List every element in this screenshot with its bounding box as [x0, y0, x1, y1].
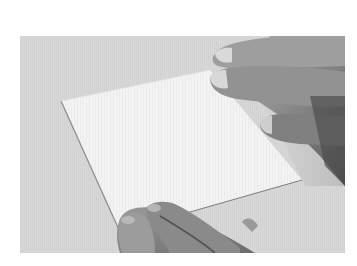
- photo-illustration: [20, 36, 345, 253]
- photo: [20, 36, 345, 253]
- page-canvas: [0, 0, 357, 266]
